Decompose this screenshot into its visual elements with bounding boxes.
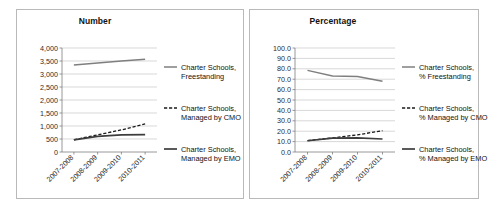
y-axis-tick-label: 10.0 (277, 137, 291, 146)
y-axis-tick-label: 20.0 (277, 127, 291, 136)
legend-item: Charter Schools,% Freestanding (402, 63, 474, 81)
y-axis-tick-label: 2,500 (40, 83, 58, 92)
legend-label: Freestanding (181, 72, 224, 81)
y-axis-tick-label: 3,500 (40, 57, 58, 66)
y-axis-tick-label: 1,500 (40, 109, 58, 118)
legend-label: % Managed by CMO (419, 113, 488, 122)
legend-label: Managed by EMO (181, 154, 241, 163)
legend-label: Charter Schools, (181, 104, 236, 113)
legend-label: Charter Schools, (181, 145, 236, 154)
data-series-line (308, 138, 383, 141)
y-axis-tick-label: 30.0 (277, 116, 291, 125)
legend-label: % Managed by EMO (419, 154, 487, 163)
legend-label: Managed by CMO (181, 113, 241, 122)
line-chart-percentage: 0.010.020.030.040.050.060.070.080.090.01… (250, 10, 480, 200)
chart-panel-percentage: Percentage 0.010.020.030.040.050.060.070… (249, 9, 479, 199)
y-axis-tick-label: 50.0 (277, 96, 291, 105)
legend-label: % Freestanding (419, 72, 471, 81)
data-series-line (308, 70, 383, 81)
y-axis-tick-label: 70.0 (277, 75, 291, 84)
y-axis-tick-label: 0.0 (281, 148, 291, 157)
chart-panel-number: Number 05001,0001,5002,0002,5003,0003,50… (16, 9, 244, 199)
legend-item: Charter Schools,% Managed by EMO (402, 145, 487, 163)
legend-label: Charter Schools, (419, 145, 474, 154)
x-axis-tick-label: 2010-2011 (354, 153, 384, 183)
dual-chart-figure: Number 05001,0001,5002,0002,5003,0003,50… (0, 0, 496, 207)
legend-item: Charter Schools,Freestanding (164, 63, 236, 81)
legend-label: Charter Schools, (419, 63, 474, 72)
legend-item: Charter Schools,% Managed by CMO (402, 104, 488, 122)
y-axis-tick-label: 100.0 (273, 44, 291, 53)
legend-item: Charter Schools,Managed by EMO (164, 145, 241, 163)
x-axis-tick-label: 2009-2010 (328, 153, 359, 184)
legend-label: Charter Schools, (181, 63, 236, 72)
y-axis-tick-label: 4,000 (40, 44, 58, 53)
y-axis-tick-label: 90.0 (277, 54, 291, 63)
y-axis-tick-label: 2,000 (40, 96, 58, 105)
legend-item: Charter Schools,Managed by CMO (164, 104, 241, 122)
y-axis-tick-label: 0 (54, 148, 58, 157)
y-axis-tick-label: 60.0 (277, 85, 291, 94)
legend-label: Charter Schools, (419, 104, 474, 113)
y-axis-tick-label: 3,000 (40, 70, 58, 79)
y-axis-tick-label: 40.0 (277, 106, 291, 115)
y-axis-tick-label: 500 (46, 135, 58, 144)
y-axis-tick-label: 80.0 (277, 64, 291, 73)
data-series-line (74, 59, 145, 65)
line-chart-number: 05001,0001,5002,0002,5003,0003,5004,0002… (17, 10, 245, 200)
y-axis-tick-label: 1,000 (40, 122, 58, 131)
